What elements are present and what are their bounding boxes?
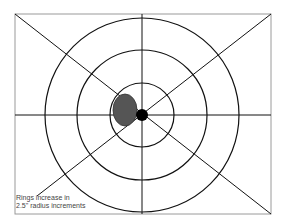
diagonal-line-tr-bl bbox=[37, 14, 271, 196]
caption-line-1: Rings increase in bbox=[16, 194, 85, 202]
target-diagram bbox=[0, 0, 286, 224]
impact-mark bbox=[113, 94, 137, 126]
center-dot bbox=[136, 109, 148, 121]
caption-line-2: 2.5" radius increments bbox=[16, 202, 85, 210]
caption: Rings increase in 2.5" radius increments bbox=[16, 194, 85, 210]
